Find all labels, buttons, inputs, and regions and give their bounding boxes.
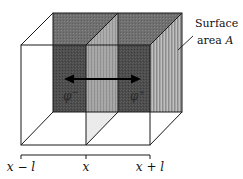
position-bracket	[21, 155, 150, 159]
diffusion-box-diagram: φ− φ+ Surface area A x − l x x + l	[0, 0, 243, 179]
surface-label-line1: Surface	[195, 17, 238, 30]
surface-label-line2: area A	[197, 34, 233, 47]
label-x-plus-l: x + l	[136, 160, 164, 174]
label-x-minus-l: x − l	[7, 160, 35, 174]
label-x: x	[83, 160, 90, 174]
